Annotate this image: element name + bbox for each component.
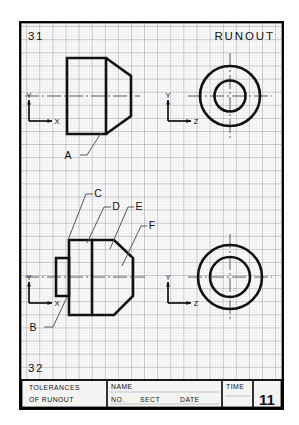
axis-front-top-y-label: Y — [26, 91, 31, 100]
axis-side-bottom-y-label: Y — [165, 273, 170, 282]
axis-front-top-x-label: X — [54, 117, 59, 126]
drawing-title: RUNOUT — [214, 30, 275, 42]
date-field-label: DATE — [180, 396, 200, 403]
axis-side-bottom-z-label: Z — [194, 299, 199, 308]
callout-label-a: A — [64, 149, 71, 161]
no-field-label: NO. — [111, 396, 125, 403]
engineering-drawing-canvas: A Y X Y Z — [0, 0, 299, 425]
tolerances-line-1: TOLERANCES — [29, 384, 80, 391]
name-field-label: NAME — [111, 383, 133, 390]
axis-side-top-y-label: Y — [165, 91, 170, 100]
callout-label-d: D — [112, 200, 120, 212]
callout-label-b: B — [29, 321, 36, 333]
axis-front-bottom-y-label: Y — [26, 273, 31, 282]
callout-label-c: C — [94, 187, 102, 199]
callout-label-e: E — [135, 200, 142, 212]
title-block: TOLERANCES OF RUNOUT NAME NO. SECT DATE … — [22, 380, 282, 408]
problem-number-bottom: 32 — [28, 362, 44, 374]
tolerances-line-2: OF RUNOUT — [29, 396, 74, 403]
grid-field — [21, 23, 282, 408]
time-field-label: TIME — [226, 383, 244, 390]
axis-front-bottom-x-label: X — [54, 299, 59, 308]
worksheet-sheet: A Y X Y Z — [0, 0, 299, 425]
axis-side-top-z-label: Z — [194, 117, 199, 126]
sheet-number: 11 — [259, 391, 275, 408]
callout-label-f: F — [149, 219, 155, 231]
sect-field-label: SECT — [140, 396, 160, 403]
problem-number-top: 31 — [28, 30, 44, 42]
